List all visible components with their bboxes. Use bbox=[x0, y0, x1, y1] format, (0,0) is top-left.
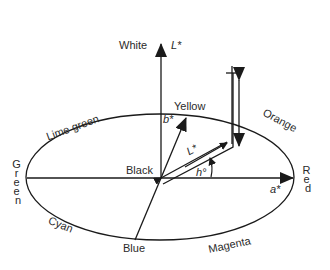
label-green: G r e e n bbox=[12, 158, 24, 206]
label-white: White bbox=[119, 39, 147, 51]
label-l-star-axis: L* bbox=[171, 39, 182, 51]
cielab-diagram: White L* Yellow b* L* Black h° a* Lime g… bbox=[0, 0, 330, 270]
label-cyan: Cyan bbox=[47, 214, 75, 235]
label-red-d: d bbox=[305, 182, 311, 194]
label-orange: Orange bbox=[261, 106, 299, 134]
label-yellow: Yellow bbox=[174, 100, 205, 112]
label-black: Black bbox=[126, 164, 153, 176]
label-green-n: n bbox=[15, 194, 21, 206]
label-b-star: b* bbox=[163, 113, 174, 125]
label-blue: Blue bbox=[123, 242, 145, 254]
b-star-arrow bbox=[161, 118, 186, 178]
label-a-star: a* bbox=[270, 183, 281, 195]
label-magenta: Magenta bbox=[207, 234, 252, 255]
hue-angle-arc bbox=[210, 158, 212, 177]
blue-axis-line bbox=[135, 178, 161, 240]
label-red: R e d bbox=[302, 164, 313, 194]
label-l-star-chroma: L* bbox=[184, 141, 199, 157]
label-lime-green: Lime green bbox=[45, 112, 101, 142]
label-hue-angle: h° bbox=[196, 166, 207, 178]
